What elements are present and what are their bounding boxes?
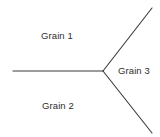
boundary-upper-right-line	[103, 8, 152, 71]
boundary-lower-right-line	[103, 71, 152, 133]
grain-2-label: Grain 2	[42, 100, 74, 111]
grain-3-label: Grain 3	[118, 65, 150, 76]
grain-boundary-diagram: Grain 1 Grain 2 Grain 3	[0, 0, 160, 137]
grain-1-label: Grain 1	[41, 30, 73, 41]
